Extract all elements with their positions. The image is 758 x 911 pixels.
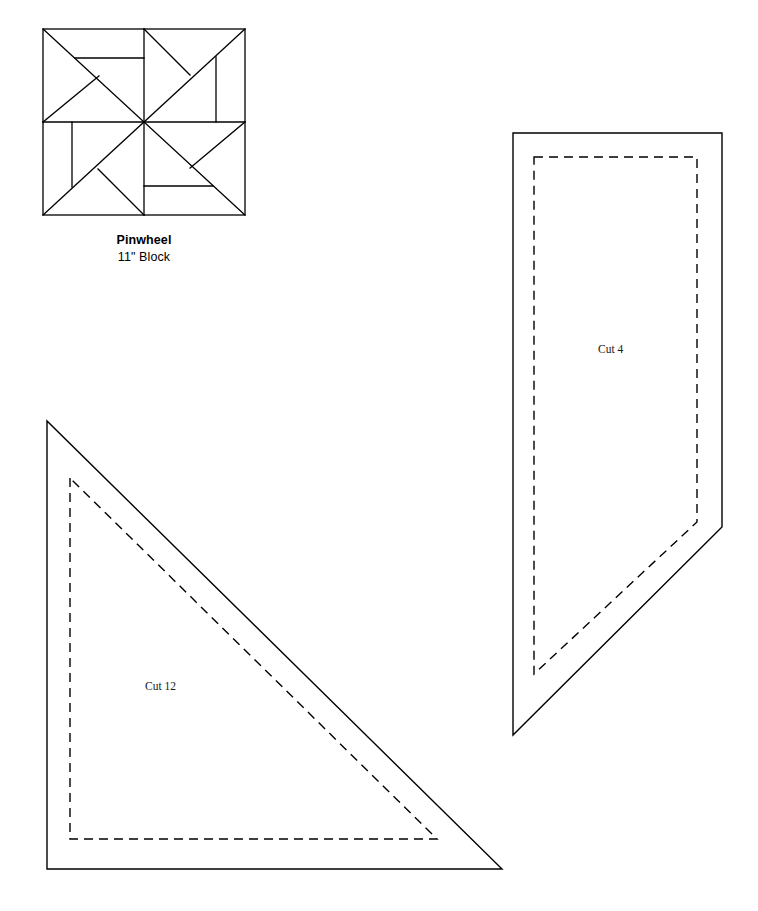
pinwheel-block-diagram xyxy=(43,29,245,215)
block-diagonal-bl xyxy=(43,122,144,215)
piece-label-cut-4: Cut 4 xyxy=(598,343,623,355)
block-diagonal-tr xyxy=(144,29,245,122)
cut-12-cutting-line xyxy=(47,421,502,869)
block-diagonal-tl xyxy=(43,29,144,122)
piece-cut-12 xyxy=(47,421,502,869)
block-caption: Pinwheel 11" Block xyxy=(43,232,245,265)
block-bl-short-diagonal xyxy=(98,169,144,215)
piece-cut-4 xyxy=(513,133,722,735)
cut-4-seam-line xyxy=(534,157,697,674)
block-br-short-diagonal xyxy=(190,122,245,168)
pattern-drawing xyxy=(0,0,758,911)
block-diagonal-br xyxy=(144,122,245,215)
template-page: Pinwheel 11" Block Cut 12 Cut 4 xyxy=(0,0,758,911)
block-size-label: 11" Block xyxy=(43,249,245,266)
cut-4-cutting-line xyxy=(513,133,722,735)
cut-12-seam-line xyxy=(70,478,437,839)
block-name: Pinwheel xyxy=(43,232,245,249)
piece-label-cut-12: Cut 12 xyxy=(145,680,176,692)
block-tl-short-diagonal xyxy=(43,76,99,122)
block-tr-short-diagonal xyxy=(144,29,190,75)
